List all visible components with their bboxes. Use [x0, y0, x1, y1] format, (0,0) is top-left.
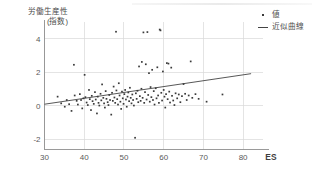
- data-point: [95, 99, 97, 101]
- data-point: [143, 102, 145, 104]
- x-tick-label: 50: [120, 153, 129, 162]
- data-point: [68, 103, 70, 105]
- data-point: [127, 92, 129, 94]
- data-point: [176, 97, 178, 99]
- data-point: [136, 98, 138, 100]
- data-point: [186, 99, 188, 101]
- data-point: [107, 101, 109, 103]
- data-point: [84, 74, 86, 76]
- data-point: [137, 90, 139, 92]
- data-point: [178, 94, 180, 96]
- data-point: [180, 101, 182, 103]
- data-point: [143, 32, 145, 34]
- data-point: [131, 103, 133, 105]
- data-point: [86, 102, 88, 104]
- scatter-chart: 労働生産性 (指数) 304050607080-2024 ES 値 近似曲線: [0, 0, 316, 171]
- data-point: [114, 102, 116, 104]
- legend-item-value: 値: [256, 9, 304, 21]
- data-point: [109, 99, 111, 101]
- data-point: [125, 99, 127, 101]
- data-point: [157, 95, 159, 97]
- data-point: [190, 61, 192, 63]
- data-point: [195, 93, 197, 95]
- data-point: [57, 96, 59, 98]
- y-tick-label: -2: [29, 135, 41, 144]
- data-point: [132, 99, 134, 101]
- data-point: [168, 63, 170, 65]
- data-point: [88, 89, 90, 91]
- data-point: [112, 100, 114, 102]
- data-point: [85, 96, 87, 98]
- data-point: [144, 91, 146, 93]
- trend-line-path: [45, 74, 252, 105]
- data-point: [123, 103, 125, 105]
- data-point: [147, 31, 149, 33]
- data-point: [171, 95, 173, 97]
- data-point: [155, 87, 157, 89]
- data-point: [169, 102, 171, 104]
- data-point: [122, 97, 124, 99]
- data-point: [119, 95, 121, 97]
- data-point: [127, 96, 129, 98]
- data-point: [116, 98, 118, 100]
- legend-label-trendline: 近似曲線: [270, 21, 304, 33]
- data-point: [139, 95, 141, 97]
- data-point: [93, 103, 95, 105]
- data-point: [150, 86, 152, 88]
- data-point: [174, 104, 176, 106]
- data-point: [191, 97, 193, 99]
- data-point: [165, 93, 167, 95]
- y-tick-label: 4: [29, 34, 41, 43]
- data-point: [101, 84, 103, 86]
- legend-label-value: 値: [270, 9, 280, 21]
- data-point: [175, 92, 177, 94]
- data-point: [172, 100, 174, 102]
- data-point: [152, 99, 154, 101]
- data-point: [162, 71, 164, 73]
- x-axis-title: ES: [265, 152, 277, 162]
- data-point: [89, 98, 91, 100]
- data-point: [140, 100, 142, 102]
- data-point: [104, 107, 106, 109]
- data-point: [141, 88, 143, 90]
- data-point: [151, 96, 153, 98]
- data-point: [164, 96, 166, 98]
- data-point: [77, 104, 79, 106]
- data-point: [168, 91, 170, 93]
- data-point: [153, 90, 155, 92]
- legend-dot-marker-icon: [256, 14, 270, 17]
- y-tick-label: 0: [29, 101, 41, 110]
- data-point: [66, 99, 68, 101]
- data-point: [113, 86, 115, 88]
- x-tick-label: 40: [80, 153, 89, 162]
- data-point: [156, 97, 158, 99]
- data-point: [96, 113, 98, 115]
- data-point: [90, 109, 92, 111]
- axis-lines: [45, 20, 270, 150]
- data-point: [138, 66, 140, 68]
- data-point: [181, 95, 183, 97]
- data-point: [74, 95, 76, 97]
- data-point: [76, 100, 78, 102]
- data-point: [129, 87, 131, 89]
- legend-item-trendline: 近似曲線: [256, 21, 304, 33]
- data-point: [81, 108, 83, 110]
- data-point: [142, 97, 144, 99]
- data-point: [131, 94, 133, 96]
- data-point: [160, 30, 162, 32]
- x-tick-label: 60: [159, 153, 168, 162]
- data-point: [98, 105, 100, 107]
- data-point: [160, 92, 162, 94]
- data-point: [146, 99, 148, 101]
- data-point: [118, 82, 120, 84]
- chart-legend: 値 近似曲線: [256, 9, 304, 33]
- data-point: [170, 67, 172, 69]
- data-point: [183, 83, 185, 85]
- data-point: [154, 104, 156, 106]
- data-point: [130, 97, 132, 99]
- data-point: [111, 92, 113, 94]
- data-point: [114, 97, 116, 99]
- data-point: [100, 100, 102, 102]
- data-point: [156, 66, 158, 68]
- data-point: [135, 92, 137, 94]
